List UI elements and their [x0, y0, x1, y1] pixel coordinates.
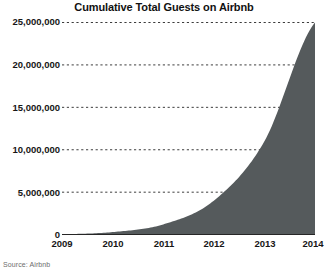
x-tick-label: 2009 [40, 238, 84, 250]
x-tick-label: 2012 [192, 238, 236, 250]
area-chart-svg [62, 22, 315, 235]
x-tick-label: 2014 [291, 238, 328, 250]
x-tick-label: 2013 [243, 238, 287, 250]
y-tick-label: 15,000,000 [2, 103, 60, 113]
y-tick-label: 10,000,000 [2, 145, 60, 155]
x-tick-label: 2010 [91, 238, 135, 250]
y-tick-label: 25,000,000 [2, 17, 60, 27]
x-tick-label: 2011 [142, 238, 186, 250]
plot-area [62, 22, 315, 235]
chart-figure: Cumulative Total Guests on Airbnb 25,000… [0, 0, 328, 272]
source-note: Source: Airbnb [3, 261, 50, 268]
y-tick-label: 5,000,000 [2, 188, 60, 198]
area-series-cumulative-guests [62, 23, 315, 236]
y-tick-label: 20,000,000 [2, 60, 60, 70]
y-axis: 25,000,000 20,000,000 15,000,000 10,000,… [0, 0, 60, 272]
x-axis: 2009 2010 2011 2012 2013 2014 [0, 238, 328, 254]
